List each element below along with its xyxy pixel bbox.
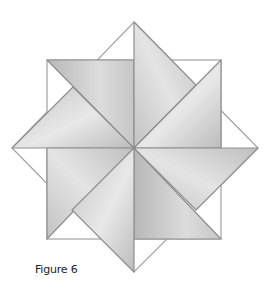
pinwheel-star-figure	[0, 0, 274, 290]
figure-caption: Figure 6	[35, 263, 77, 276]
